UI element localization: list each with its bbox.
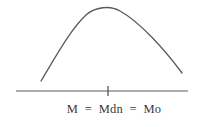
bell-curve xyxy=(41,8,182,81)
central-tendency-label: M = Mdn = Mo xyxy=(0,102,199,117)
